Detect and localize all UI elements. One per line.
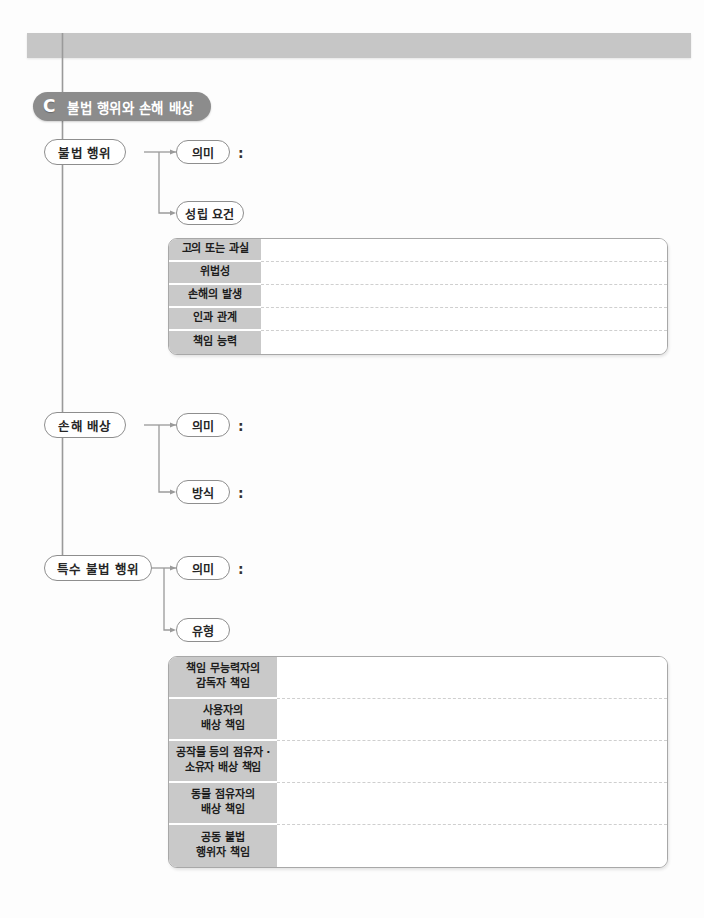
table-1-value-1[interactable]: [277, 699, 667, 741]
sub-node-1-1-colon: :: [238, 486, 244, 500]
chapter-badge: C 불법 행위와 손해 배상: [33, 92, 211, 121]
sub-node-2-0-label: 의미: [192, 560, 214, 577]
branch-node-2-label: 특수 불법 행위: [57, 559, 139, 578]
sub-node-1-0-colon: :: [238, 419, 244, 433]
table-0-value-4[interactable]: [261, 331, 667, 354]
table-0-label-1: 위법성: [169, 262, 261, 285]
table-0-value-1[interactable]: [261, 262, 667, 285]
table-1: 책임 무능력자의 감독자 책임 사용자의 배상 책임 공작물 등의 점유자 · …: [168, 656, 668, 868]
table-row: 사용자의 배상 책임: [169, 699, 667, 741]
table-row: 인과 관계: [169, 308, 667, 331]
table-1-label-3: 동물 점유자의 배상 책임: [169, 783, 277, 825]
table-1-value-2[interactable]: [277, 741, 667, 783]
table-1-label-2: 공작물 등의 점유자 · 소유자 배상 책임: [169, 741, 277, 783]
sub-node-0-0-label: 의미: [192, 144, 214, 161]
header-bar: [27, 33, 691, 58]
table-0-label-0: 고의 또는 과실: [169, 239, 261, 262]
sub-node-1-0: 의미: [176, 413, 230, 437]
table-0-label-3: 인과 관계: [169, 308, 261, 331]
sub-node-1-0-label: 의미: [192, 417, 214, 434]
branch-node-1-label: 손해 배상: [58, 416, 111, 435]
table-1-value-4[interactable]: [277, 825, 667, 867]
table-1-value-3[interactable]: [277, 783, 667, 825]
chapter-letter: C: [43, 98, 55, 115]
table-1-value-0[interactable]: [277, 657, 667, 699]
table-0-label-2: 손해의 발생: [169, 285, 261, 308]
sub-node-1-1-label: 방식: [192, 484, 214, 501]
table-1-label-4: 공동 불법 행위자 책임: [169, 825, 277, 867]
branch-node-2: 특수 불법 행위: [44, 555, 152, 581]
table-row: 동물 점유자의 배상 책임: [169, 783, 667, 825]
branch-node-0-label: 불법 행위: [58, 143, 111, 162]
table-0-value-0[interactable]: [261, 239, 667, 262]
table-0: 고의 또는 과실 위법성 손해의 발생 인과 관계 책임 능력: [168, 238, 668, 355]
branch-node-0: 불법 행위: [44, 139, 126, 165]
table-0-label-4: 책임 능력: [169, 331, 261, 354]
table-row: 공동 불법 행위자 책임: [169, 825, 667, 867]
table-1-label-0: 책임 무능력자의 감독자 책임: [169, 657, 277, 699]
branch-node-1: 손해 배상: [44, 412, 126, 438]
sub-node-1-1: 방식: [176, 480, 230, 504]
table-row: 위법성: [169, 262, 667, 285]
sub-node-0-1-label: 성립 요건: [185, 205, 234, 222]
sub-node-0-1: 성립 요건: [176, 201, 244, 225]
sub-node-0-0: 의미: [176, 140, 230, 164]
table-0-value-3[interactable]: [261, 308, 667, 331]
table-row: 고의 또는 과실: [169, 239, 667, 262]
sub-node-2-1-label: 유형: [192, 622, 214, 639]
table-1-label-1: 사용자의 배상 책임: [169, 699, 277, 741]
chapter-title: 불법 행위와 손해 배상: [67, 97, 193, 117]
table-row: 책임 무능력자의 감독자 책임: [169, 657, 667, 699]
sub-node-0-0-colon: :: [238, 146, 244, 160]
table-row: 공작물 등의 점유자 · 소유자 배상 책임: [169, 741, 667, 783]
sub-node-2-0-colon: :: [238, 562, 244, 576]
worksheet-page: C 불법 행위와 손해 배상 불법 행위 의미 : 성립 요건 고의 또는 과실…: [0, 0, 704, 918]
table-0-value-2[interactable]: [261, 285, 667, 308]
sub-node-2-1: 유형: [176, 618, 230, 642]
table-row: 손해의 발생: [169, 285, 667, 308]
table-row: 책임 능력: [169, 331, 667, 354]
sub-node-2-0: 의미: [176, 556, 230, 580]
